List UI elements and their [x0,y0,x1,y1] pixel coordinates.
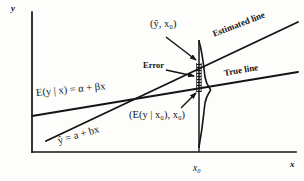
regression-error-diagram: y x x0 E(y | x) = α + βx ŷ = a + bx Esti… [0,0,304,181]
normal-distribution-curve [199,41,211,147]
x0-tick-label: x0 [193,164,200,174]
y-axis-label: y [11,4,15,13]
yhat-point-leader [166,37,196,60]
expected-point-label: (E(y | x₀), x₀) [129,110,185,121]
x-axis-label: x [290,160,295,169]
error-label: Error [143,61,164,70]
expected-point-leader [181,93,196,108]
error-segment [197,63,202,92]
yhat-point-label: (ŷ, x₀) [150,19,176,30]
